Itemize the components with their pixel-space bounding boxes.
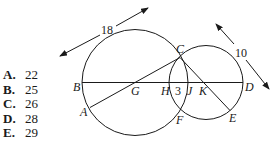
label-overlap-3: 3: [175, 84, 181, 98]
geometry-diagram: 18 10 B G H 3 J K D C A F E: [0, 0, 279, 143]
label-d: D: [244, 80, 254, 94]
label-f: F: [175, 113, 184, 127]
label-b: B: [73, 80, 81, 94]
label-a: A: [79, 105, 88, 119]
dimension-arrow-10-up: [216, 24, 234, 44]
label-k: K: [198, 84, 208, 98]
dimension-arrow-18-right: [116, 8, 148, 26]
label-g: G: [131, 84, 140, 98]
dimension-label-10: 10: [235, 46, 247, 60]
label-c: C: [176, 42, 185, 56]
label-j: J: [187, 84, 193, 98]
label-e: E: [228, 111, 237, 125]
dimension-arrow-18-left: [60, 35, 100, 56]
dimension-label-18: 18: [101, 23, 113, 37]
label-h: H: [160, 84, 171, 98]
